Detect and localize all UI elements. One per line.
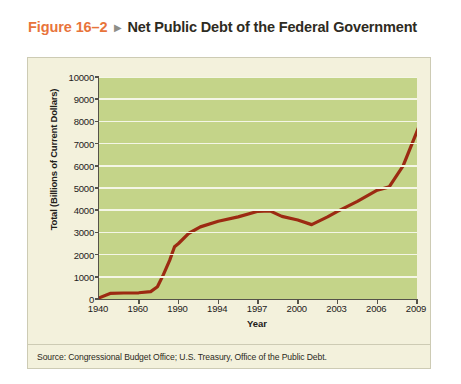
x-axis-title: Year (98, 318, 416, 329)
y-axis-tick-label: 1000 (74, 271, 94, 282)
y-axis-tick (95, 165, 99, 167)
chart-area: Total (Billions of Current Dollars) 0100… (28, 58, 432, 338)
y-axis-tick-label: 7000 (74, 138, 94, 149)
x-axis-tick-label: 1940 (88, 303, 108, 314)
x-axis-tick-label: 1997 (247, 303, 267, 314)
plot-region (98, 77, 417, 300)
y-axis-tick-labels: 0100020003000400050006000700080009000100… (46, 77, 94, 299)
y-axis-tick (95, 121, 99, 123)
y-axis-tick (95, 276, 99, 278)
y-axis-tick-label: 3000 (74, 227, 94, 238)
y-axis-tick-label: 6000 (74, 160, 94, 171)
y-axis-tick (95, 232, 99, 234)
x-axis-tick-label: 1960 (128, 303, 148, 314)
gridline (99, 165, 417, 167)
figure-number-label: Figure 16–2 (28, 19, 108, 35)
x-axis-tick-label: 1990 (167, 303, 187, 314)
y-axis-tick (95, 98, 99, 100)
source-note: Source: Congressional Budget Office; U.S… (37, 352, 422, 362)
y-axis-tick (95, 143, 99, 145)
y-axis-tick (95, 187, 99, 189)
y-axis-tick (95, 254, 99, 256)
y-axis-tick (95, 209, 99, 211)
y-axis-tick (95, 76, 99, 78)
y-axis-tick-label: 4000 (74, 205, 94, 216)
gridline (99, 232, 417, 234)
gridline (99, 77, 417, 78)
gridline (99, 254, 417, 256)
figure-header: Figure 16–2 ▶ Net Public Debt of the Fed… (28, 19, 417, 35)
figure-container: Figure 16–2 ▶ Net Public Debt of the Fed… (0, 0, 461, 384)
gridline (99, 121, 417, 123)
gridline (99, 98, 417, 100)
y-axis-tick-label: 2000 (74, 249, 94, 260)
plot-inner (99, 77, 417, 299)
gridline (99, 276, 417, 278)
gridline (99, 209, 417, 211)
y-axis-tick-label: 10000 (69, 72, 94, 83)
y-axis-tick (95, 298, 99, 300)
x-axis-tick-label: 2003 (326, 303, 346, 314)
y-axis-tick-label: 5000 (74, 183, 94, 194)
gridline (99, 187, 417, 189)
triangle-right-icon: ▶ (114, 22, 122, 33)
x-axis-tick-label: 1994 (207, 303, 227, 314)
y-axis-tick-label: 8000 (74, 116, 94, 127)
x-axis-tick-labels: 194019601990199419972000200320062009 (98, 303, 416, 317)
figure-title: Net Public Debt of the Federal Governmen… (128, 19, 418, 35)
gridline (99, 143, 417, 145)
x-axis-tick-label: 2009 (406, 303, 426, 314)
source-divider (28, 344, 430, 345)
x-axis-tick-label: 2000 (287, 303, 307, 314)
chart-panel: Total (Billions of Current Dollars) 0100… (27, 57, 431, 369)
y-axis-tick-label: 9000 (74, 94, 94, 105)
x-axis-tick-label: 2006 (366, 303, 386, 314)
